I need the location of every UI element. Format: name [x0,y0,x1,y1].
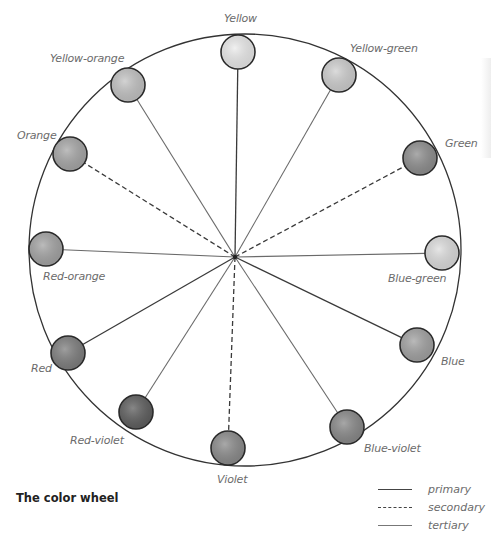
label-violet: Violet [217,473,247,486]
spoke-primary-yellow [235,69,238,257]
swatch-blue [400,328,434,362]
legend-item-tertiary: tertiary [378,516,488,534]
swatch-red-orange [29,232,63,266]
spoke-tertiary-yellow-orange [137,99,235,257]
swatch-yellow [221,35,255,69]
label-yellow: Yellow [224,12,257,25]
color-swatches [29,35,459,465]
legend-item-primary: primary [378,480,488,498]
legend-label: tertiary [428,519,469,532]
spoke-secondary-orange [84,163,235,257]
swatch-yellow-orange [111,68,145,102]
page-edge-shadow [481,58,491,158]
label-red-violet: Red-violet [70,434,124,447]
swatch-violet [211,431,245,465]
spoke-primary-blue [235,257,402,338]
label-green: Green [445,137,478,150]
color-wheel-diagram [0,0,491,538]
spoke-secondary-violet [229,257,235,431]
diagram-caption: The color wheel [16,491,118,505]
label-yellow-orange: Yellow-orange [50,52,124,65]
spokes [63,69,425,431]
spoke-tertiary-yellow-green [235,90,331,257]
label-red-orange: Red-orange [43,270,105,283]
label-blue-violet: Blue-violet [364,442,421,455]
dashed-line-icon [378,507,412,508]
label-yellow-green: Yellow-green [350,42,418,55]
swatch-green [403,141,437,175]
legend-item-secondary: secondary [378,498,488,516]
spoke-tertiary-red-orange [63,250,235,257]
spoke-tertiary-red-violet [145,257,235,398]
label-orange: Orange [17,129,56,142]
swatch-red [51,336,85,370]
solid-line-icon [378,489,412,490]
label-blue: Blue [441,355,465,368]
legend: primary secondary tertiary [378,480,488,534]
swatch-orange [53,137,87,171]
label-blue-green: Blue-green [388,272,446,285]
legend-label: secondary [428,501,485,514]
legend-label: primary [428,483,471,496]
swatch-red-violet [119,395,153,429]
label-red: Red [31,362,52,375]
solid-line-icon [378,525,412,526]
hub-center [233,255,237,259]
spoke-tertiary-blue-green [235,253,425,257]
spoke-primary-red [83,257,235,345]
swatch-blue-green [425,236,459,270]
swatch-yellow-green [322,58,356,92]
outer-circle [29,34,461,466]
spoke-tertiary-blue-violet [235,257,338,413]
swatch-blue-violet [330,410,364,444]
